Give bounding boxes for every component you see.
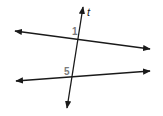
lower-line — [16, 71, 150, 81]
transversal-diagram: t 1 5 — [0, 0, 163, 116]
angle-5-label: 5 — [64, 66, 70, 77]
transversal-label: t — [87, 6, 91, 18]
transversal-line — [67, 7, 83, 108]
angle-1-label: 1 — [72, 26, 78, 37]
upper-line — [15, 31, 150, 49]
